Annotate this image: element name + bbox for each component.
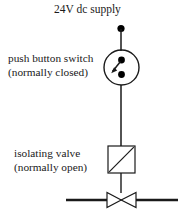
valve-label: isolating valve (normally open) [14, 146, 87, 175]
switch-label-line-2: (normally closed) [8, 65, 93, 79]
valve-label-line-2: (normally open) [14, 160, 87, 174]
valve-body-left-triangle [107, 193, 121, 208]
switch-body-circle [104, 50, 139, 85]
circuit-diagram-svg [0, 0, 180, 221]
supply-label: 24V dc supply [54, 2, 121, 17]
valve-label-line-1: isolating valve [14, 146, 87, 160]
switch-lower-contact-dot [118, 71, 125, 78]
valve-actuator-diagonal [109, 147, 134, 172]
valve-body-right-triangle [121, 193, 136, 208]
switch-label: push button switch (normally closed) [8, 51, 93, 80]
circuit-diagram: 24V dc supply push button switch (normal… [0, 0, 180, 221]
switch-actuation-arrow-head [111, 67, 117, 73]
switch-label-line-1: push button switch [8, 51, 93, 65]
